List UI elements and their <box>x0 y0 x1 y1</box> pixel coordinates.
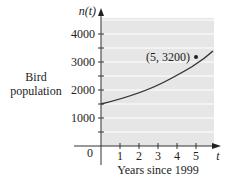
y-axis-arrow-icon <box>98 8 104 16</box>
y-axis-title-line1: Bird <box>25 70 46 84</box>
x-tick-label: 1 <box>117 149 123 163</box>
y-tick-label: 1000 <box>71 111 95 125</box>
x-tick-label: 2 <box>136 149 142 163</box>
data-point-marker <box>194 55 198 59</box>
y-axis-title-line2: population <box>10 84 61 98</box>
y-tick-label: 3000 <box>71 55 95 69</box>
y-axis-name: n(t) <box>79 4 96 18</box>
plot-area <box>101 18 214 146</box>
point-annotation: (5, 3200) <box>146 50 190 64</box>
x-axis-name: t <box>216 149 220 163</box>
chart: 4000 3000 2000 1000 0 1 2 3 4 5 t n(t) B… <box>0 0 232 185</box>
x-tick-label: 5 <box>193 149 199 163</box>
y-tick-label: 4000 <box>71 27 95 41</box>
y-tick-label: 2000 <box>71 83 95 97</box>
x-tick-label: 4 <box>174 149 180 163</box>
x-tick-label: 3 <box>155 149 161 163</box>
x-axis-title: Years since 1999 <box>117 163 198 177</box>
origin-label: 0 <box>87 146 93 160</box>
